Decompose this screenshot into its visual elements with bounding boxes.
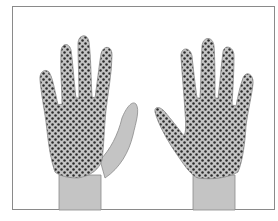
right-hand — [155, 39, 253, 211]
left-wrist — [59, 175, 101, 210]
right-wrist — [193, 175, 235, 210]
left-hand-dotted — [40, 36, 112, 178]
right-hand-dotted — [155, 39, 253, 179]
left-hand — [40, 36, 138, 210]
hands-illustration — [0, 0, 278, 221]
